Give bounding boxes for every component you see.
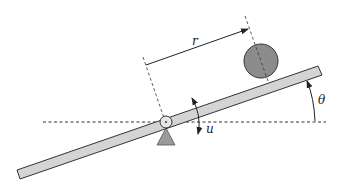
- theta-label: θ: [318, 93, 326, 107]
- r-extension-left: [143, 57, 164, 118]
- pivot-center-dot: [165, 121, 167, 123]
- ball-beam-diagram: r u θ: [0, 0, 341, 186]
- theta-angle-arc: [307, 81, 315, 121]
- r-label: r: [192, 34, 199, 48]
- ball: [244, 44, 278, 78]
- u-label: u: [206, 122, 214, 136]
